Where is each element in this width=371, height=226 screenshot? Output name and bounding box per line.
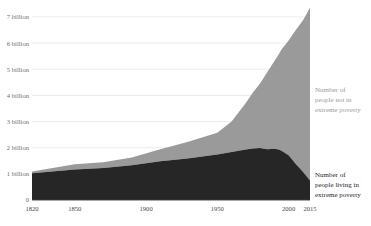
x-tick-label-2015: 2015 — [303, 205, 317, 212]
gray-label-line-3: extreme poverty — [315, 106, 361, 114]
y-tick-label-6: 6 billion — [7, 40, 30, 47]
x-tick-label-1820: 1820 — [25, 205, 39, 212]
dark-label-line-3: extreme poverty — [315, 191, 361, 199]
gray-label-line-1: Number of — [315, 86, 346, 94]
y-tick-label-2: 2 billion — [7, 144, 30, 151]
dark-label-line-1: Number of — [315, 171, 346, 179]
y-tick-label-5: 5 billion — [7, 66, 30, 73]
population-poverty-area-chart: 7 billion 6 billion 5 billion 4 billion … — [0, 0, 371, 226]
gray-label-line-2: people not in — [315, 96, 352, 104]
y-tick-label-1: 1 billion — [7, 170, 30, 177]
x-tick-label-1900: 1900 — [140, 205, 154, 212]
dark-label-line-2: people living in — [315, 181, 359, 189]
x-tick-label-1850: 1850 — [68, 205, 82, 212]
y-tick-label-7: 7 billion — [7, 13, 30, 20]
x-tick-label-1950: 1950 — [211, 205, 225, 212]
y-tick-label-3: 3 billion — [7, 118, 30, 125]
y-tick-label-4: 4 billion — [7, 92, 30, 99]
chart-canvas: 7 billion 6 billion 5 billion 4 billion … — [0, 0, 371, 226]
x-tick-label-2000: 2000 — [282, 205, 296, 212]
